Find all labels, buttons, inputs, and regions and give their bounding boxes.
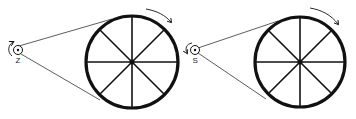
pulley-label-s: S	[193, 56, 198, 65]
pulley-label-z: Z	[16, 56, 21, 65]
panel-left-z: Z	[9, 9, 178, 108]
rotation-arrow-icon	[9, 42, 13, 56]
wheel-rotation-arrow-icon	[310, 8, 338, 24]
belt-drive-diagram: Z S	[0, 0, 356, 119]
pulley-z-icon	[14, 46, 23, 55]
panel-right-s: S	[186, 8, 345, 107]
wheel-icon	[86, 16, 178, 108]
pulley-s-icon	[191, 46, 200, 55]
wheel-icon	[255, 17, 345, 107]
